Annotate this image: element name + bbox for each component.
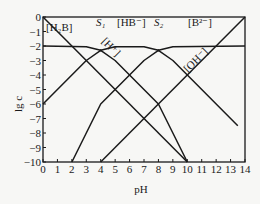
x-tick-label: 10 [182, 163, 194, 175]
y-tick-label: −10 [24, 156, 42, 168]
label-s2: S₂ [154, 16, 164, 28]
y-tick-label: −9 [29, 142, 41, 154]
label-s1: S₁ [96, 16, 106, 28]
y-tick-label: −4 [29, 69, 41, 81]
label-oh: [OH⁻] [181, 45, 210, 74]
label-hb: [HB⁻] [117, 16, 146, 28]
y-tick-label: −1 [29, 26, 41, 38]
s2-point [157, 49, 159, 51]
y-tick-label: −5 [29, 84, 41, 96]
series-line [43, 17, 187, 162]
label-h: [H⁺] [100, 35, 124, 59]
x-tick-label: 2 [69, 163, 75, 175]
x-axis-title: pH [134, 183, 148, 195]
x-tick-label: 4 [98, 163, 104, 175]
x-tick-label: 9 [170, 163, 176, 175]
series-line [43, 46, 187, 162]
chart: 0−1−2−3−4−5−6−7−8−9−10 01234567891011121… [0, 0, 260, 204]
y-tick-label: 0 [36, 11, 42, 23]
y-axis-title: lg c [12, 96, 24, 112]
x-tick-label: 1 [55, 163, 61, 175]
x-tick-label: 3 [84, 163, 90, 175]
x-tick-label: 11 [196, 163, 207, 175]
x-tick-label: 0 [40, 163, 46, 175]
x-tick-label: 12 [211, 163, 222, 175]
y-tick-label: −8 [29, 127, 41, 139]
series-group [43, 17, 245, 162]
x-tick-label: 6 [127, 163, 133, 175]
x-tick-label: 8 [156, 163, 162, 175]
y-tick-label: −2 [29, 40, 41, 52]
x-tick-label: 13 [225, 163, 237, 175]
label-b2: [B²⁻] [188, 16, 212, 28]
x-tick-label: 14 [240, 163, 252, 175]
y-tick-label: −6 [29, 98, 41, 110]
label-h2b: [H₂B] [46, 21, 72, 33]
y-tick-label: −3 [29, 55, 41, 67]
x-tick-label: 5 [112, 163, 118, 175]
x-tick-label: 7 [141, 163, 147, 175]
y-tick-label: −7 [29, 113, 41, 125]
s1-point [100, 49, 102, 51]
series-line [101, 17, 245, 162]
